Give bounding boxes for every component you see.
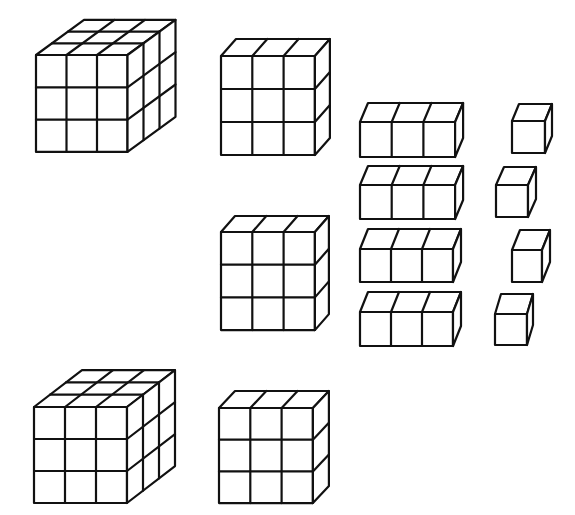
front-face	[512, 250, 542, 282]
side-face	[315, 216, 329, 330]
large-cube-2	[34, 370, 175, 503]
top-face	[221, 39, 330, 56]
top-face	[221, 216, 329, 232]
front-face	[34, 407, 127, 503]
rod-1	[360, 103, 463, 157]
top-face	[360, 229, 461, 249]
unit-1	[512, 104, 552, 153]
front-face	[360, 122, 455, 157]
front-face	[512, 121, 545, 153]
unit-3	[512, 230, 550, 282]
front-face	[360, 185, 455, 219]
flat-3	[219, 391, 329, 503]
front-face	[360, 312, 453, 346]
flat-1	[221, 39, 330, 155]
rod-4	[360, 292, 461, 346]
top-face	[360, 103, 463, 122]
top-face	[360, 292, 461, 312]
base-ten-blocks-diagram	[0, 0, 575, 515]
flat-2	[221, 216, 329, 330]
rod-3	[360, 229, 461, 282]
front-face	[221, 232, 315, 330]
large-cube-1	[36, 20, 176, 152]
front-face	[496, 185, 528, 217]
front-face	[36, 55, 128, 152]
rod-2	[360, 166, 463, 219]
unit-2	[496, 167, 536, 217]
top-face	[360, 166, 463, 185]
side-face	[315, 39, 330, 155]
front-face	[360, 249, 453, 282]
side-face	[313, 391, 329, 503]
unit-4	[495, 294, 533, 345]
shapes-group	[34, 20, 552, 503]
front-face	[219, 408, 313, 503]
top-face	[219, 391, 329, 408]
front-face	[221, 56, 315, 155]
front-face	[495, 314, 527, 345]
